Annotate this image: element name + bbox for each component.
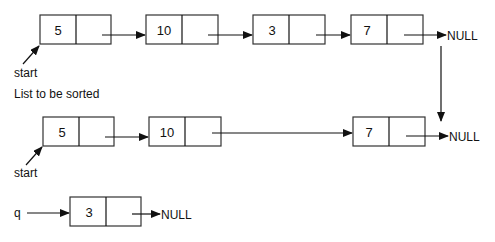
node-value: 3 — [85, 205, 92, 220]
node-3: 3 — [253, 15, 325, 44]
caption: List to be sorted — [14, 87, 99, 101]
node-value: 7 — [365, 125, 372, 140]
row-removed-node: q 3 NULL — [14, 197, 192, 226]
node-3: 3 — [70, 197, 141, 226]
start-label: start — [14, 166, 38, 180]
node-7: 7 — [353, 117, 425, 146]
node-value: 10 — [160, 125, 174, 140]
start-label: start — [14, 66, 38, 80]
node-10: 10 — [149, 117, 221, 146]
node-10: 10 — [146, 15, 218, 44]
null-label: NULL — [161, 208, 192, 222]
node-value: 5 — [54, 23, 61, 38]
start-pointer-arrow — [23, 46, 39, 64]
null-label: NULL — [449, 130, 480, 144]
q-label: q — [14, 206, 21, 220]
node-5: 5 — [43, 117, 114, 146]
linked-list-diagram: 5 10 3 7 NULL start List to be sorted — [0, 0, 495, 242]
node-value: 5 — [58, 125, 65, 140]
node-value: 3 — [268, 23, 275, 38]
null-label: NULL — [447, 29, 478, 43]
start-pointer-arrow — [26, 147, 42, 165]
row-list-after-removal: 5 10 7 NULL start — [14, 117, 480, 180]
node-value: 7 — [363, 23, 370, 38]
node-5: 5 — [40, 15, 111, 44]
node-value: 10 — [157, 23, 171, 38]
row-original-list: 5 10 3 7 NULL start List to be sorted — [14, 15, 478, 101]
node-7: 7 — [351, 15, 423, 44]
